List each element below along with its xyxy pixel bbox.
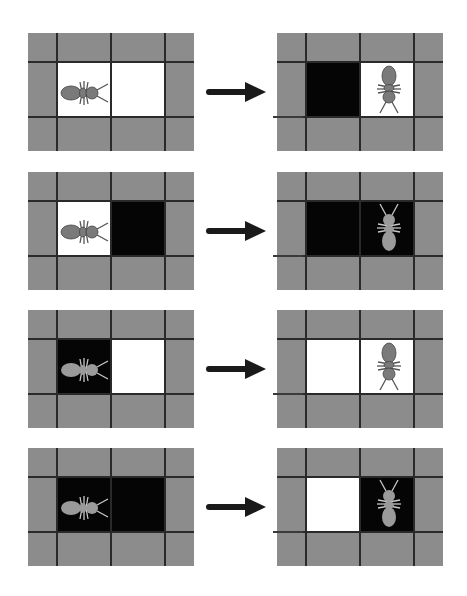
grid-line	[277, 476, 443, 478]
ant-icon	[364, 64, 414, 118]
grid-after-row-2	[277, 172, 443, 290]
grid-line	[305, 33, 307, 151]
cell-white	[306, 339, 360, 394]
grid-line	[359, 33, 361, 151]
grid-line	[28, 338, 194, 340]
grid-line	[359, 448, 361, 566]
cell-white	[111, 62, 165, 117]
grid-line	[56, 448, 58, 566]
grid-line	[277, 338, 443, 340]
grid-line	[359, 310, 361, 428]
grid-before-row-4	[28, 448, 194, 566]
grid-line	[56, 310, 58, 428]
grid-line	[305, 448, 307, 566]
grid-before-row-1	[28, 33, 194, 151]
grid-line	[305, 172, 307, 290]
ant-icon	[59, 207, 109, 261]
cell-black	[306, 201, 360, 256]
grid-after-row-1	[277, 33, 443, 151]
grid-line-stub	[273, 255, 303, 257]
grid-line	[164, 310, 166, 428]
arrow-right-icon	[205, 496, 267, 518]
grid-line	[164, 172, 166, 290]
cell-black	[111, 477, 165, 532]
ant-icon	[364, 203, 414, 257]
arrow-right-icon	[205, 81, 267, 103]
grid-line	[359, 172, 361, 290]
grid-line	[110, 448, 112, 566]
grid-line	[110, 310, 112, 428]
cell-white	[306, 477, 360, 532]
ant-icon	[364, 341, 414, 395]
grid-line	[28, 116, 194, 118]
grid-line	[28, 393, 194, 395]
arrow-right-icon	[205, 358, 267, 380]
grid-line	[164, 448, 166, 566]
ant-icon	[59, 345, 109, 399]
grid-line	[28, 200, 194, 202]
grid-line	[56, 33, 58, 151]
grid-before-row-2	[28, 172, 194, 290]
grid-line	[277, 200, 443, 202]
grid-line	[28, 61, 194, 63]
arrow-right-icon	[205, 220, 267, 242]
grid-after-row-4	[277, 448, 443, 566]
grid-line	[110, 33, 112, 151]
grid-line	[28, 476, 194, 478]
ant-icon	[59, 483, 109, 537]
ant-icon	[59, 68, 109, 122]
grid-line	[277, 61, 443, 63]
grid-line	[164, 33, 166, 151]
grid-line	[56, 172, 58, 290]
grid-before-row-3	[28, 310, 194, 428]
grid-line	[28, 531, 194, 533]
cell-white	[111, 339, 165, 394]
grid-line-stub	[273, 393, 303, 395]
grid-line	[305, 310, 307, 428]
grid-line	[28, 255, 194, 257]
cell-black	[306, 62, 360, 117]
grid-line-stub	[273, 116, 303, 118]
cell-black	[111, 201, 165, 256]
grid-line	[110, 172, 112, 290]
grid-after-row-3	[277, 310, 443, 428]
grid-line-stub	[273, 531, 303, 533]
ant-icon	[364, 479, 414, 533]
